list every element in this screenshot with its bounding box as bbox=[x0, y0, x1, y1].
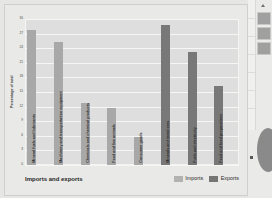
y-axis-tick-label: 9 bbox=[21, 120, 23, 123]
panel-swatch-3[interactable] bbox=[257, 42, 271, 55]
bar-slot: Chemicals and chemical products bbox=[81, 19, 108, 165]
bar-series-group: Mineral fuels and lubricantsMachinery an… bbox=[27, 19, 237, 165]
bar-category-label: Fuels and electricity bbox=[194, 128, 198, 163]
bar-category-label: Chemicals and chemical products bbox=[87, 103, 91, 163]
panel-strip-divider bbox=[248, 54, 255, 55]
panel-swatch-1[interactable] bbox=[257, 12, 271, 25]
bar-category-label: Food and food preparations bbox=[221, 114, 225, 163]
y-axis-tick-label: 6 bbox=[21, 134, 23, 137]
x-axis-title: Imports and exports bbox=[25, 176, 83, 182]
y-axis-tick-label: 12 bbox=[19, 105, 23, 108]
panel-strip-divider bbox=[248, 18, 255, 19]
panel-strip bbox=[248, 0, 256, 130]
legend-item-imports[interactable]: Imports bbox=[174, 176, 203, 182]
y-axis-tick-label: 27 bbox=[19, 32, 23, 35]
bar-slot: Fuels and electricity bbox=[188, 19, 215, 165]
panel-circle-shape bbox=[257, 128, 272, 172]
panel-strip-divider bbox=[248, 90, 255, 91]
panel-strip-divider bbox=[248, 36, 255, 37]
y-axis-tick-label: 3 bbox=[21, 149, 23, 152]
bar-category-label: Food and live animals bbox=[114, 124, 118, 163]
chart-legend: Imports Exports bbox=[174, 176, 239, 182]
bar-slot: Machinery and transportation equipment bbox=[54, 19, 81, 165]
right-side-panel bbox=[248, 0, 272, 198]
chart-footer: Imports and exports Imports Exports bbox=[25, 171, 239, 187]
panel-marker-dot-icon bbox=[250, 156, 253, 159]
plot-area: 302724211815129630 Mineral fuels and lub… bbox=[25, 19, 239, 165]
y-axis-tick-label: 18 bbox=[19, 76, 23, 79]
bar-category-label: Minerals and metal ores bbox=[167, 121, 171, 163]
bar-slot: Minerals and metal ores bbox=[161, 19, 188, 165]
chart-card: Percentage of total 302724211815129630 M… bbox=[4, 4, 248, 196]
y-axis-tick-label: 30 bbox=[19, 17, 23, 20]
legend-swatch-imports-icon bbox=[174, 176, 183, 182]
legend-swatch-exports-icon bbox=[209, 176, 218, 182]
bar-slot: Food and live animals bbox=[107, 19, 134, 165]
panel-swatch-2[interactable] bbox=[257, 27, 271, 40]
y-axis-title: Percentage of total bbox=[9, 19, 17, 165]
bar-category-label: Consumer goods bbox=[140, 133, 144, 163]
screenshot-root: Percentage of total 302724211815129630 M… bbox=[0, 0, 272, 198]
bar-slot: Food and food preparations bbox=[214, 19, 241, 165]
y-axis-title-label: Percentage of total bbox=[11, 76, 15, 108]
bar-slot: Consumer goods bbox=[134, 19, 161, 165]
y-axis-tick-label: 15 bbox=[19, 90, 23, 93]
bar-slot: Mineral fuels and lubricants bbox=[27, 19, 54, 165]
y-axis-tick-label: 24 bbox=[19, 47, 23, 50]
legend-label-exports: Exports bbox=[221, 176, 239, 181]
legend-label-imports: Imports bbox=[185, 176, 203, 181]
panel-strip-divider bbox=[248, 108, 255, 109]
panel-strip-divider bbox=[248, 72, 255, 73]
bar-category-label: Machinery and transportation equipment bbox=[60, 91, 64, 163]
y-axis-tick-label: 0 bbox=[21, 163, 23, 166]
gridline bbox=[25, 165, 239, 166]
chevron-up-icon[interactable] bbox=[261, 4, 265, 7]
bar-category-label: Mineral fuels and lubricants bbox=[33, 114, 37, 163]
y-axis-tick-label: 21 bbox=[19, 61, 23, 64]
legend-item-exports[interactable]: Exports bbox=[209, 176, 239, 182]
